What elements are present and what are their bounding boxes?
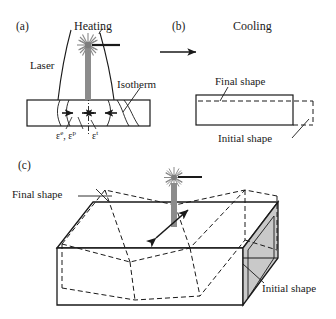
initial-shape-leader-b	[292, 119, 309, 138]
initial-shape-label-b: Initial shape	[218, 133, 272, 144]
initial-shape-label-c: Initial shape	[262, 283, 316, 294]
final-shape-label-b: Final shape	[215, 76, 265, 87]
final-shape-rect-b	[196, 95, 293, 125]
final-shape-leader-b	[220, 87, 228, 101]
panel-b-tag: (b)	[172, 21, 185, 33]
strain-sup-p: p	[73, 129, 77, 137]
laser-label-a: Laser	[30, 60, 54, 71]
strain-leaders	[66, 117, 96, 129]
panel-c-graphics	[57, 167, 278, 305]
strain-elastic-plastic-label: εe, εp	[56, 131, 76, 141]
final-shape-label-c: Final shape	[12, 189, 62, 200]
panel-b-title: Cooling	[233, 20, 272, 32]
strain-sup-t: t	[96, 129, 98, 137]
panel-b-graphics	[196, 87, 313, 138]
figure-vector-layer	[0, 0, 336, 319]
strain-thermal-label: εt	[92, 131, 98, 141]
final-shape-leader-c	[78, 189, 112, 201]
initial-shape-dashed-b	[198, 101, 313, 125]
panel-a-title: Heating	[74, 20, 112, 32]
laser-forming-figure: (a) Heating Laser Isotherm εe, εp εt (b)…	[0, 0, 336, 319]
strain-epsilon-p: , ε	[63, 130, 72, 141]
panel-a-tag: (a)	[16, 21, 29, 33]
panel-c-tag: (c)	[18, 160, 31, 172]
isotherm-label-a: Isotherm	[117, 79, 156, 90]
